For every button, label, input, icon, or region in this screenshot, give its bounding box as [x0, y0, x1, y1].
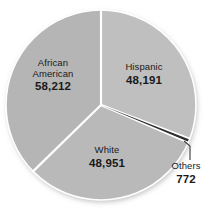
pie-chart-figure: African American 58,212 Hispanic 48,191 … — [0, 0, 216, 212]
pie-chart-svg — [0, 0, 216, 212]
